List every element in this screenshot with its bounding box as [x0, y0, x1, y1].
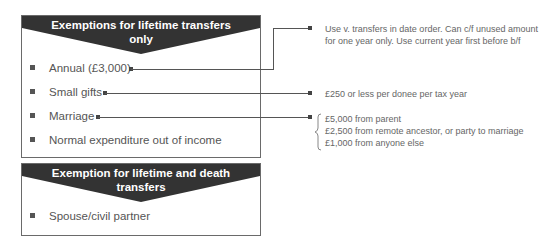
bullet-icon	[30, 213, 35, 218]
box-title: Exemption for lifetime and death transfe…	[22, 164, 260, 194]
connector-line	[131, 69, 273, 70]
list-item-normal-expenditure: Normal expenditure out of income	[30, 134, 222, 146]
lifetime-only-exemptions-box: Exemptions for lifetime transfers only A…	[21, 15, 261, 158]
small-gifts-note: £250 or less per donee per tax year	[325, 88, 467, 100]
lifetime-and-death-exemptions-box: Exemption for lifetime and death transfe…	[21, 163, 261, 236]
connector-end-dot	[308, 26, 312, 30]
bullet-icon	[30, 65, 35, 70]
connector-line	[273, 28, 274, 70]
bullet-icon	[30, 137, 35, 142]
list-item-marriage: Marriage	[30, 110, 94, 122]
connector-end-dot	[308, 115, 312, 119]
annual-note: Use v. transfers in date order. Can c/f …	[325, 23, 538, 47]
box-title: Exemptions for lifetime transfers only	[22, 16, 260, 46]
lifetime-only-header: Exemptions for lifetime transfers only	[22, 16, 260, 54]
brace-icon	[313, 113, 323, 151]
connector-line	[105, 93, 310, 94]
bullet-icon	[30, 113, 35, 118]
lifetime-and-death-header: Exemption for lifetime and death transfe…	[22, 164, 260, 202]
marriage-note: £5,000 from parent £2,500 from remote an…	[325, 113, 524, 149]
connector-line	[273, 28, 310, 29]
bullet-icon	[30, 89, 35, 94]
connector-end-dot	[308, 91, 312, 95]
connector-line	[98, 117, 310, 118]
list-item-spouse: Spouse/civil partner	[30, 210, 150, 222]
list-item-small-gifts: Small gifts	[30, 86, 102, 98]
list-item-annual: Annual (£3,000)	[30, 62, 131, 74]
